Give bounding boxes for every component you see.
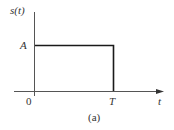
end-label: T bbox=[109, 96, 115, 107]
amplitude-label: A bbox=[20, 40, 27, 51]
x-axis-arrow-icon bbox=[156, 89, 164, 94]
origin-label: 0 bbox=[26, 96, 32, 107]
pulse-diagram bbox=[0, 0, 174, 130]
pulse-signal bbox=[35, 46, 114, 92]
x-axis-label: t bbox=[158, 96, 161, 107]
caption: (a) bbox=[88, 112, 100, 123]
y-axis-label: s(t) bbox=[10, 5, 25, 16]
